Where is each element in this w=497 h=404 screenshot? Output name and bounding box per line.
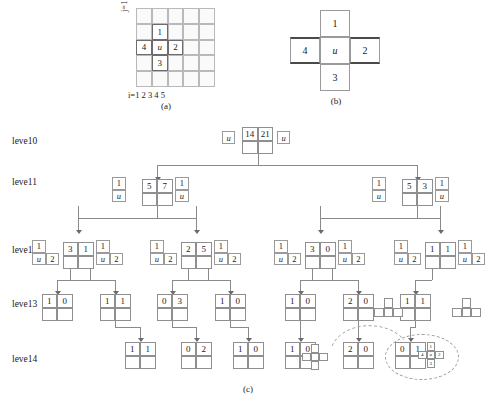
level1-node-0-right-box-tl: 1 (175, 177, 189, 190)
level4-node-1-br (196, 356, 212, 370)
level2-node-3-left-box: 1u2 (394, 240, 421, 265)
level1-node-1-right-box: 1u (435, 177, 462, 202)
level1-right-stem-b (440, 206, 441, 218)
level4-node-1-tl: 0 (181, 342, 197, 356)
level3-node-0-tl: 1 (42, 294, 58, 308)
level2-node-3-right-box-br: 2 (472, 253, 486, 266)
plus-cell-top: 1 (320, 10, 350, 37)
s22a (312, 269, 313, 280)
level3-node-3-br (230, 308, 246, 322)
grid-cell-4-5 (183, 71, 199, 87)
level0-node-br (258, 141, 274, 155)
level2-node-0-right-box-bl: u (96, 253, 110, 266)
level2-node-1-right-box-br: 2 (228, 253, 242, 266)
level2-node-1-right-box: 1u2 (214, 240, 241, 265)
level4-shape-plus-top (311, 344, 320, 353)
level3-node-1-tl: 1 (100, 294, 116, 308)
level4-node-0-tl: 1 (125, 342, 141, 356)
level0-node-tr: 21 (258, 127, 274, 141)
level2-node-1-right-box-tl: 1 (214, 240, 228, 253)
level4-node-4-bl (343, 356, 359, 370)
level2-node-1-left-box-br: 2 (164, 253, 178, 266)
level2-node-0-right-box-br: 2 (110, 253, 124, 266)
level2-node-2-right-box: 1u2 (338, 240, 365, 265)
level2-node-2-right-box-br: 2 (352, 253, 366, 266)
level1-node-0-left-box-tl: 1 (112, 177, 126, 190)
level2-node-1-tl: 2 (181, 242, 197, 256)
level4-node-2-br (248, 356, 264, 370)
level1-node-1-right-box-bl: u (435, 190, 449, 203)
level3-shape-0-cell-2 (384, 308, 394, 318)
level3-node-4-bl (285, 308, 301, 322)
level3-shape-1-cell-0 (462, 298, 472, 308)
grid-cell-5-5 (199, 71, 215, 87)
grid-cell-2-1 (152, 8, 168, 24)
level1-node-0-tr: 7 (157, 179, 173, 193)
level1-node-0-left-box-bl: u (112, 190, 126, 203)
grid-cell-4: 4 (136, 40, 152, 56)
level3-node-0-bl (42, 308, 58, 322)
level4-node-1-bl (181, 356, 197, 370)
level2-node-3-right-box-tl: 1 (458, 240, 472, 253)
level1-node-1-left-box-bl: u (372, 190, 386, 203)
level4-shape-plus-right (319, 353, 328, 362)
level3-node-3-tl: 1 (215, 294, 231, 308)
level2-node-3-right-box: 1u2 (458, 240, 485, 265)
level3-node-4: 10 (285, 294, 316, 321)
level2-node-3-br (440, 256, 456, 270)
plus-cell-left: 4 (290, 37, 320, 64)
level2-node-3-tl: 1 (425, 242, 441, 256)
level-label-0: leve10 (12, 136, 37, 146)
level2-node-3-bl (425, 256, 441, 270)
y-axis-label: j=1 2 3 4 5 (119, 0, 129, 12)
level1-left-stem-b (196, 206, 197, 218)
level2-node-0-bl (63, 256, 79, 270)
level4-node-3-tl: 1 (285, 342, 301, 356)
level1-node-0-tl: 5 (142, 179, 158, 193)
caption-a: (a) (146, 101, 186, 111)
level1-node-0-left-box: 1u (112, 177, 139, 202)
grid-cell-5-1 (199, 8, 215, 24)
level4-node-1-tr: 2 (196, 342, 212, 356)
level3-node-0-tr: 0 (57, 294, 73, 308)
level2-node-3-left-box-br: 2 (408, 253, 422, 266)
level2-node-0-right-box-tl: 1 (96, 240, 110, 253)
plus-cell-right: 2 (350, 37, 380, 64)
level2-node-0-left-box: 1u2 (32, 240, 59, 265)
level2-node-0-right-box: 1u2 (96, 240, 123, 265)
level1-node-1-right-box-tl: 1 (435, 177, 449, 190)
s20a (70, 269, 71, 280)
grid-cell-4-2 (183, 24, 199, 40)
arrow-head (194, 230, 200, 234)
level3-node-2-bl (157, 308, 173, 322)
level3-node-3-bl (215, 308, 231, 322)
figure-root: 14u23 j=1 2 3 4 5 i=1 2 3 4 5 (a) 1 4 u … (0, 0, 497, 404)
level0-node: 1421 (242, 127, 273, 154)
s21a (188, 269, 189, 280)
level3-node-1-bl (100, 308, 116, 322)
level2-node-3-left-box-tl: 1 (394, 240, 408, 253)
level2-node-2-br (320, 256, 336, 270)
level4-node-0-br (140, 356, 156, 370)
level4-node-2-bl (233, 356, 249, 370)
level1-right-center (417, 206, 418, 218)
level1-node-1-br (417, 193, 433, 207)
level3-node-2-tl: 0 (157, 294, 173, 308)
level3-shape-1 (452, 298, 482, 318)
level1-node-1-left-box: 1u (372, 177, 399, 202)
level1-node-1: 53 (402, 179, 433, 206)
level3-shape-1-cell-3 (471, 308, 481, 318)
x-axis-label: i=1 2 3 4 5 (128, 90, 165, 100)
level4-node-2-tl: 1 (233, 342, 249, 356)
level2-node-1-br (196, 256, 212, 270)
level0-node-tl: 14 (242, 127, 258, 141)
level3-node-1: 11 (100, 294, 131, 321)
level2-node-3: 11 (425, 242, 456, 269)
grid-cell-3-4 (168, 55, 184, 71)
grid-cell-3-5 (168, 71, 184, 87)
arrow-head (318, 230, 324, 234)
level4-node-3-bl (285, 356, 301, 370)
level2-node-1-tr: 5 (196, 242, 212, 256)
caption-c: (c) (228, 384, 268, 394)
level4-shape-plus (302, 344, 328, 370)
